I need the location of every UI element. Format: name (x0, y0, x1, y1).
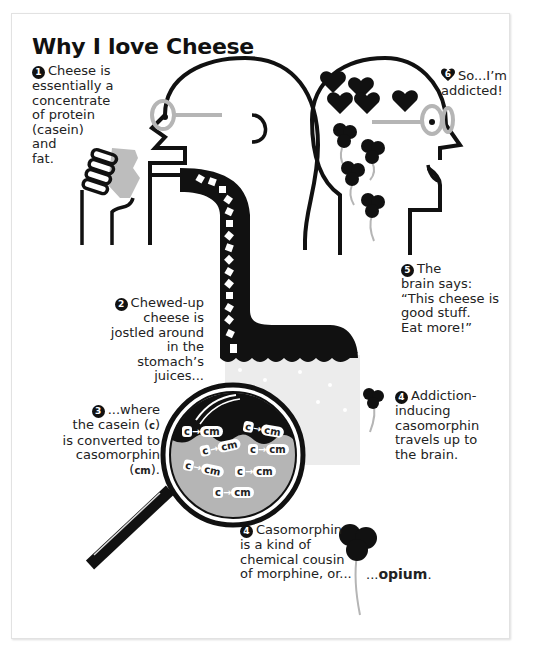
step-6-caption: 6So...I’m addicted! (441, 68, 507, 98)
right-glasses-icon (372, 106, 453, 134)
step-4b-caption: 4Casomorphin is a kind of chemical cousi… (240, 523, 352, 582)
step-4a-caption: 4Addiction- inducing casomorphin travels… (395, 389, 479, 462)
heart-number-badge: 6 (441, 68, 455, 81)
poppy-icon (363, 388, 384, 432)
esophagus (180, 168, 358, 362)
right-eye-icon (429, 119, 435, 125)
step-number-badge: 2 (115, 298, 128, 311)
hearts-icon (320, 71, 418, 114)
step-5-caption: 5The brain says: “This cheese is good st… (401, 262, 499, 335)
left-eye-icon (162, 114, 168, 120)
opium-label: ...opium. (366, 567, 432, 583)
conversion-label: c→cm (182, 425, 223, 440)
conversion-label: c→cm (235, 465, 276, 480)
step-3-caption: 3...where the casein (c) is converted to… (60, 403, 160, 478)
conversion-label: c→cm (248, 443, 289, 458)
step-1-caption: 1Cheese is essentially a concentrate of … (32, 64, 113, 166)
conversion-label: c→cm (213, 486, 254, 501)
step-2-caption: 2Chewed-up cheese is jostled around in t… (100, 296, 204, 384)
